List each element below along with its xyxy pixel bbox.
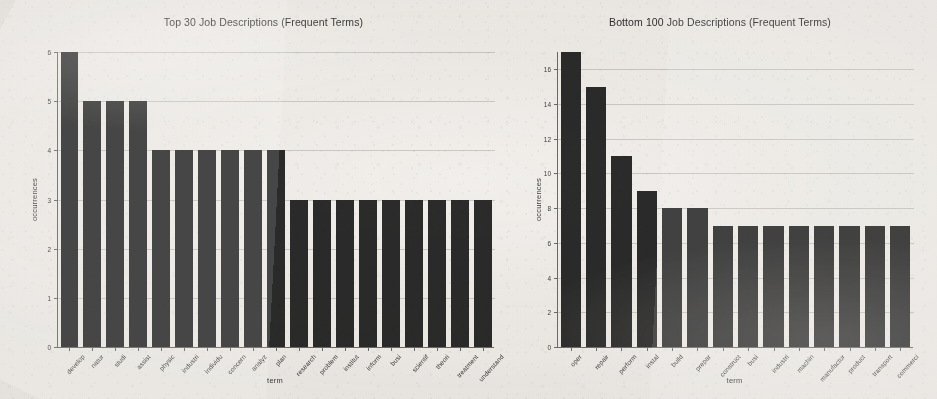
y-tick-mark xyxy=(54,150,57,151)
bar-slot xyxy=(127,52,150,347)
bar-product[interactable] xyxy=(839,226,859,347)
bar-slot xyxy=(310,52,333,347)
x-tick-mark xyxy=(723,348,724,351)
bar-industri[interactable] xyxy=(175,150,193,347)
y-tick-mark xyxy=(554,312,557,313)
bar-industri[interactable] xyxy=(763,226,783,347)
x-tick-mark xyxy=(596,348,597,351)
bar-develop[interactable] xyxy=(61,52,79,347)
bar-concern[interactable] xyxy=(221,150,239,347)
y-tick-label: 16 xyxy=(533,66,551,73)
x-tick-mark xyxy=(345,348,346,351)
y-tick-mark xyxy=(54,101,57,102)
bar-studi[interactable] xyxy=(106,101,124,347)
bar-slot xyxy=(634,52,659,347)
chart-panel-top30: Top 30 Job Descriptions (Frequent Terms)… xyxy=(0,0,497,399)
y-tick-label: 8 xyxy=(533,205,551,212)
bar-slot xyxy=(710,52,735,347)
bar-instal[interactable] xyxy=(637,191,657,347)
bar-physic[interactable] xyxy=(152,150,170,347)
y-tick-mark xyxy=(54,200,57,201)
bar-plan[interactable] xyxy=(267,150,285,347)
x-tick-mark xyxy=(276,348,277,351)
bar-slot xyxy=(402,52,425,347)
x-tick-mark xyxy=(69,348,70,351)
y-tick-mark xyxy=(54,347,57,348)
x-tick-mark xyxy=(799,348,800,351)
x-axis-label-bottom100: term xyxy=(557,376,912,385)
bar-slot xyxy=(558,52,583,347)
bar-series-bottom100 xyxy=(558,52,913,347)
x-tick-mark xyxy=(571,348,572,351)
bar-inform[interactable] xyxy=(359,200,377,348)
x-tick-mark xyxy=(138,348,139,351)
bar-slot xyxy=(196,52,219,347)
bar-slot xyxy=(288,52,311,347)
bar-slot xyxy=(379,52,402,347)
bar-assist[interactable] xyxy=(129,101,147,347)
bar-research[interactable] xyxy=(290,200,308,348)
bar-understand[interactable] xyxy=(474,200,492,348)
bar-perform[interactable] xyxy=(611,156,631,347)
x-tick-mark xyxy=(748,348,749,351)
x-tick-mark xyxy=(437,348,438,351)
bar-slot xyxy=(685,52,710,347)
bar-slot xyxy=(58,52,81,347)
bar-slot xyxy=(333,52,356,347)
bar-prepar[interactable] xyxy=(687,208,707,347)
bar-slot xyxy=(609,52,634,347)
x-tick-mark xyxy=(900,348,901,351)
bar-analyz[interactable] xyxy=(244,150,262,347)
x-tick-mark xyxy=(414,348,415,351)
x-tick-label-busi: busi xyxy=(746,353,759,367)
bar-busi[interactable] xyxy=(382,200,400,348)
y-tick-mark xyxy=(554,173,557,174)
bar-treatment[interactable] xyxy=(451,200,469,348)
x-tick-mark xyxy=(875,348,876,351)
bar-slot xyxy=(736,52,761,347)
y-tick-label: 5 xyxy=(33,98,51,105)
x-tick-mark xyxy=(824,348,825,351)
y-tick-label: 14 xyxy=(533,101,551,108)
bar-problem[interactable] xyxy=(313,200,331,348)
bar-transport[interactable] xyxy=(865,226,885,347)
bar-construct[interactable] xyxy=(713,226,733,347)
bar-machin[interactable] xyxy=(789,226,809,347)
bar-commerci[interactable] xyxy=(890,226,910,347)
plot-area-top30: 0123456developnaturstudiassistphysicindu… xyxy=(0,0,497,399)
bar-scientif[interactable] xyxy=(405,200,423,348)
x-axis-label-top30: term xyxy=(57,376,493,385)
bar-busi[interactable] xyxy=(738,226,758,347)
bar-slot xyxy=(173,52,196,347)
x-tick-mark xyxy=(774,348,775,351)
x-tick-mark xyxy=(647,348,648,351)
bar-repair[interactable] xyxy=(586,87,606,347)
y-tick-mark xyxy=(554,104,557,105)
bar-series-top30 xyxy=(58,52,494,347)
chart-panel-bottom100: Bottom 100 Job Descriptions (Frequent Te… xyxy=(497,0,937,399)
bar-slot xyxy=(448,52,471,347)
y-tick-mark xyxy=(554,139,557,140)
x-tick-mark xyxy=(322,348,323,351)
x-tick-mark xyxy=(697,348,698,351)
x-tick-mark xyxy=(850,348,851,351)
bar-natur[interactable] xyxy=(83,101,101,347)
bar-slot xyxy=(659,52,684,347)
bar-slot xyxy=(761,52,786,347)
figure-panel-row: Top 30 Job Descriptions (Frequent Terms)… xyxy=(0,0,937,399)
y-tick-mark xyxy=(54,52,57,53)
bar-slot xyxy=(356,52,379,347)
y-tick-label: 10 xyxy=(533,170,551,177)
bar-oper[interactable] xyxy=(561,52,581,347)
y-tick-mark xyxy=(554,347,557,348)
bar-manufactur[interactable] xyxy=(814,226,834,347)
bar-theori[interactable] xyxy=(428,200,446,348)
x-tick-mark xyxy=(299,348,300,351)
bar-institut[interactable] xyxy=(336,200,354,348)
y-tick-mark xyxy=(554,278,557,279)
bar-slot xyxy=(219,52,242,347)
bar-build[interactable] xyxy=(662,208,682,347)
bar-individu[interactable] xyxy=(198,150,216,347)
x-tick-mark xyxy=(672,348,673,351)
y-tick-label: 4 xyxy=(533,274,551,281)
